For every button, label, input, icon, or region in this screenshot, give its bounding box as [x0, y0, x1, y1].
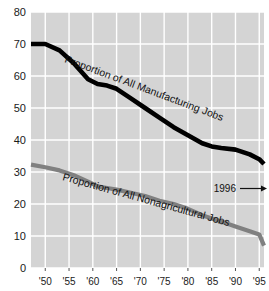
- x-axis-tick-label: '85: [205, 276, 218, 287]
- x-axis-tick-label: '90: [229, 276, 242, 287]
- annotation-year-label: 1996: [214, 183, 237, 194]
- x-axis-tick-label: '75: [158, 276, 171, 287]
- y-axis-tick-label: 0: [20, 262, 26, 274]
- x-axis-tick-label: '65: [110, 276, 123, 287]
- x-axis-tick-label: '55: [63, 276, 76, 287]
- x-axis-tick-label: '50: [39, 276, 52, 287]
- x-axis-tick-label: '60: [86, 276, 99, 287]
- y-axis-tick-label: 10: [14, 230, 26, 242]
- y-axis-tick-label: 80: [14, 6, 26, 18]
- chart-container: 01020304050607080 '50'55'60'65'70'75'80'…: [0, 0, 269, 291]
- y-axis-tick-label: 20: [14, 198, 26, 210]
- x-axis-tick-label: '95: [253, 276, 266, 287]
- y-axis-tick-label: 60: [14, 70, 26, 82]
- y-axis-tick-label: 50: [14, 102, 26, 114]
- x-axis-tick-label: '70: [134, 276, 147, 287]
- line-chart: 01020304050607080 '50'55'60'65'70'75'80'…: [0, 0, 269, 291]
- y-axis-tick-labels: 01020304050607080: [14, 6, 26, 274]
- x-axis-tick-label: '80: [181, 276, 194, 287]
- y-axis-tick-label: 40: [14, 134, 26, 146]
- y-axis-tick-label: 30: [14, 166, 26, 178]
- y-axis-tick-label: 70: [14, 38, 26, 50]
